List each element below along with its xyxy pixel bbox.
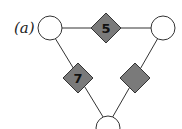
factor-top-diamond: 5 (91, 13, 121, 43)
node-bottom-circle (96, 116, 120, 129)
node-left-circle (38, 16, 62, 40)
factor-left-value: 7 (73, 71, 82, 86)
figure-label: (a) (14, 19, 35, 37)
factor-graph-diagram: (a) 5 7 (0, 0, 182, 129)
factor-left-diamond: 7 (63, 63, 93, 93)
factor-top-value: 5 (101, 21, 110, 36)
factor-right-diamond (120, 63, 150, 93)
node-right-circle (151, 16, 175, 40)
